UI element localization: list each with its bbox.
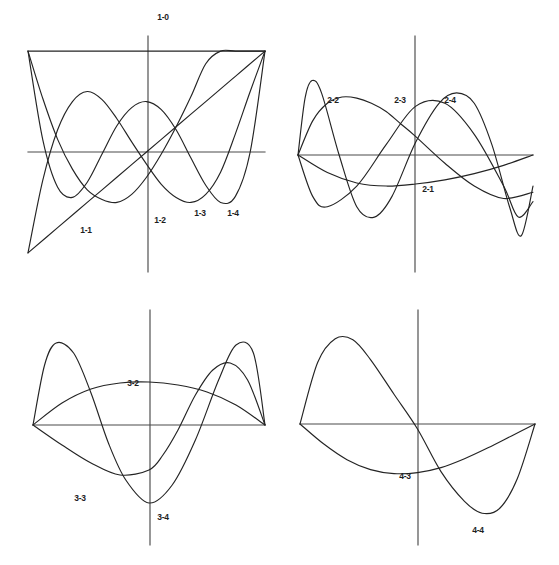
curve-label-1-4: 1-4 [227, 208, 239, 218]
curves-svg [0, 0, 559, 565]
figure-root: 1-01-11-21-31-42-12-22-32-43-23-33-44-34… [0, 0, 559, 565]
curve-label-2-1: 2-1 [422, 184, 434, 194]
curve-label-3-2: 3-2 [127, 378, 139, 388]
curve-3-4 [33, 363, 265, 476]
panel-top-right [298, 36, 533, 272]
curve-label-1-2: 1-2 [154, 215, 166, 225]
curve-label-2-3: 2-3 [394, 95, 406, 105]
curve-label-1-1: 1-1 [80, 225, 92, 235]
curve-label-3-4: 3-4 [157, 512, 169, 522]
panel-bottom-right [300, 310, 535, 545]
curve-label-1-3: 1-3 [194, 208, 206, 218]
panel-top-left [28, 36, 265, 272]
curve-label-1-0: 1-0 [157, 12, 169, 22]
curve-label-2-4: 2-4 [444, 95, 456, 105]
curve-label-4-4: 4-4 [472, 525, 484, 535]
panel-bottom-left [33, 310, 265, 545]
curve-label-3-3: 3-3 [74, 493, 86, 503]
curve-label-4-3: 4-3 [399, 471, 411, 481]
curve-3-3 [33, 342, 265, 503]
curve-3-2 [33, 382, 265, 425]
curve-1-2 [28, 50, 265, 202]
curve-1-4 [28, 51, 265, 203]
curve-label-2-2: 2-2 [327, 95, 339, 105]
